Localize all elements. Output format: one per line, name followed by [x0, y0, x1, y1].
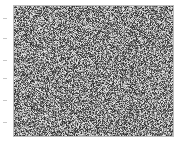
axis-tick: [3, 38, 7, 39]
axis-tick: [3, 60, 7, 61]
axis-tick: [3, 78, 7, 79]
noise-image: [13, 5, 174, 137]
axis-tick: [3, 122, 7, 123]
axis-tick: [3, 18, 7, 19]
noise-canvas: [14, 6, 173, 136]
axis-tick: [3, 100, 7, 101]
